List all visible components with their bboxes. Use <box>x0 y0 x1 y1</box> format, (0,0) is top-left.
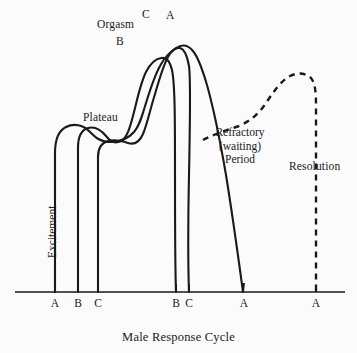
tick-label-a3: A <box>309 297 323 309</box>
peak-label-b: B <box>116 35 124 48</box>
orgasm-label: Orgasm <box>97 18 134 31</box>
refractory-label-line3: Period <box>207 153 273 167</box>
curve-b <box>78 58 176 292</box>
figure-caption: Male Response Cycle <box>0 330 357 345</box>
peak-label-a: A <box>166 9 174 22</box>
curve-refractory-resolution <box>203 74 316 292</box>
axis-tick-a2 <box>243 283 244 292</box>
refractory-label-line2: (waiting) <box>207 140 273 154</box>
tick-label-a2: A <box>237 297 251 309</box>
plateau-label: Plateau <box>83 111 118 124</box>
tick-label-b1: B <box>71 297 85 309</box>
resolution-label: Resolution <box>289 160 340 173</box>
peak-label-c: C <box>142 8 150 21</box>
male-response-cycle-figure: Orgasm B C A Plateau Excitement Refracto… <box>0 0 357 353</box>
excitement-label: Excitement <box>46 206 58 258</box>
refractory-label-line1: Refractory <box>207 126 273 140</box>
curve-a <box>55 46 243 292</box>
tick-label-c1: C <box>91 297 105 309</box>
tick-label-a1: A <box>48 297 62 309</box>
tick-label-b2: B <box>169 297 183 309</box>
tick-label-c2: C <box>182 297 196 309</box>
